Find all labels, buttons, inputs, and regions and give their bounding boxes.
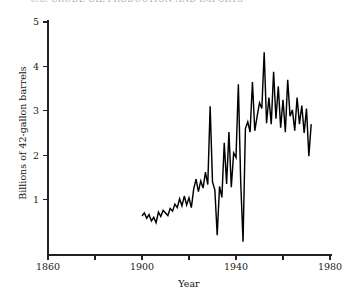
x-tick-label: 1980 xyxy=(318,261,342,272)
chart-title: U.S. CRUDE OIL PRODUCTION AND IMPORTS xyxy=(30,0,330,4)
data-series-line xyxy=(142,52,311,242)
y-tick-label: 4 xyxy=(33,61,39,72)
figure-container: U.S. CRUDE OIL PRODUCTION AND IMPORTS 12… xyxy=(0,0,353,300)
y-tick-label: 5 xyxy=(33,16,39,27)
x-axis-ticks: 1860190019401980 xyxy=(36,255,342,272)
y-axis-ticks: 12345 xyxy=(33,16,48,205)
y-tick-label: 2 xyxy=(33,150,39,161)
y-tick-label: 1 xyxy=(33,194,39,205)
x-tick-label: 1940 xyxy=(224,261,248,272)
y-axis-title: Billions of 42-gallon barrels xyxy=(17,66,28,200)
x-tick-label: 1900 xyxy=(130,261,154,272)
x-axis-title: Year xyxy=(177,278,200,289)
axes-group xyxy=(48,20,332,255)
line-chart-plot: 12345 1860190019401980 Billions of 42-ga… xyxy=(0,0,353,300)
x-tick-label: 1860 xyxy=(36,261,60,272)
y-tick-label: 3 xyxy=(33,105,39,116)
